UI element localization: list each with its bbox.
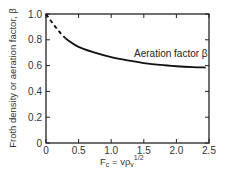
y-tick-label: 0 [36, 138, 42, 149]
data-curves [46, 14, 206, 68]
y-tick-label: 0.6 [28, 60, 42, 71]
x-tick-label: 2.5 [202, 145, 216, 156]
x-tick-label: 2.0 [169, 145, 183, 156]
y-tick-label: 1.0 [28, 9, 42, 20]
y-axis-label: Froth density or aeration factor, β [7, 8, 18, 148]
y-tick-label: 0.2 [28, 112, 42, 123]
y-tick-label: 0.4 [28, 86, 42, 97]
x-axis-label: Fc = vρv1/2 [100, 154, 144, 168]
y-tick-label: 0.8 [28, 34, 42, 45]
x-tick-label: 0.5 [72, 145, 86, 156]
plot-frame [46, 14, 209, 143]
aeration-factor-chart: 00.51.01.52.02.5 00.20.40.60.81.0 Aerati… [0, 0, 226, 175]
x-axis-ticks: 00.51.01.52.02.5 [43, 14, 216, 156]
dashed-curve [46, 14, 66, 39]
y-axis-ticks: 00.20.40.60.81.0 [28, 9, 209, 149]
x-tick-label: 1.0 [104, 145, 118, 156]
x-tick-label: 0 [43, 145, 49, 156]
curve-annotation: Aeration factor β [134, 48, 208, 59]
